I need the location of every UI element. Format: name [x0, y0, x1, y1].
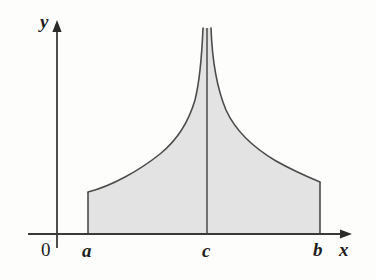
y-axis-arrowhead [52, 20, 61, 32]
improper-integral-diagram [0, 0, 376, 280]
y-axis-label: y [40, 12, 48, 31]
figure-container: y x 0 a c b [0, 0, 376, 280]
shaded-region-left [88, 28, 207, 234]
tick-label-a: a [82, 241, 92, 260]
tick-label-c: c [202, 241, 210, 260]
shaded-region-right [207, 28, 320, 234]
x-axis-arrowhead [340, 230, 352, 239]
tick-label-b: b [313, 240, 323, 259]
x-axis-label: x [339, 240, 349, 259]
origin-label: 0 [41, 240, 51, 259]
